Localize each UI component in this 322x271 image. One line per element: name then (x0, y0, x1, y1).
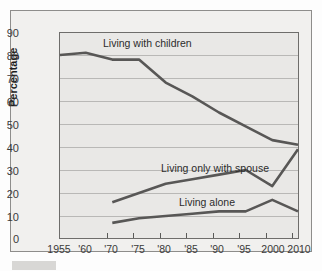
y-tick-label-80: 80 (0, 51, 19, 62)
x-tick-label-1975: '75 (131, 243, 145, 255)
x-tick-label-1995: '95 (237, 243, 251, 255)
series-label-living-alone: Living alone (179, 196, 235, 208)
y-tick-label-0: 0 (0, 234, 19, 245)
y-tick-label-20: 20 (0, 189, 19, 200)
y-tick-label-30: 30 (0, 166, 19, 177)
x-tick-label-1955: 1955 (47, 243, 70, 255)
y-tick-label-50: 50 (0, 120, 19, 131)
y-tick-label-60: 60 (0, 97, 19, 108)
x-tick-label-1960: '60 (78, 243, 92, 255)
y-tick-label-90: 90 (0, 28, 19, 39)
x-tick-label-1985: '85 (184, 243, 198, 255)
y-tick-label-70: 70 (0, 74, 19, 85)
bottom-gray-band (12, 261, 56, 270)
series-label-living-only-with-spouse: Living only with spouse (161, 162, 269, 174)
y-tick-label-40: 40 (0, 143, 19, 154)
x-tick-label-1990: '90 (210, 243, 224, 255)
series-line-living-only-with-spouse (112, 149, 298, 202)
chart-screenshot: Percentage 90 80 70 60 50 40 30 20 10 0 (0, 0, 322, 271)
x-tick-label-2010: 2010 (287, 243, 310, 255)
series-label-living-with-children: Living with children (103, 37, 192, 49)
series-line-living-with-children (60, 53, 298, 145)
y-tick-label-10: 10 (0, 212, 19, 223)
x-tick-label-1980: '80 (157, 243, 171, 255)
x-tick-label-2000: 2000 (261, 243, 284, 255)
x-tick-label-1970: '70 (104, 243, 118, 255)
figure-frame: Percentage 90 80 70 60 50 40 30 20 10 0 (10, 10, 312, 252)
